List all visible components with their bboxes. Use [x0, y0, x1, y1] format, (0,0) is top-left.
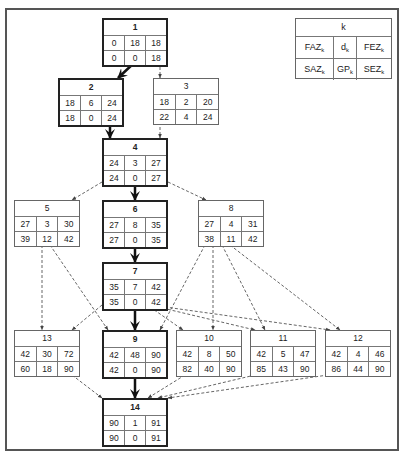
legend-fez: FEZk	[356, 37, 391, 58]
edge-12-to-14	[168, 375, 328, 398]
node-id: 5	[15, 201, 79, 217]
edge-13-to-14	[72, 375, 102, 398]
node-faz: 27	[199, 217, 220, 231]
legend-faz: FAZk	[296, 37, 333, 58]
node-row-late: 864490	[326, 361, 390, 376]
node-row-late: 824090	[177, 361, 241, 376]
node-faz: 24	[104, 156, 124, 170]
activity-node-11: 1142547854390	[250, 330, 316, 377]
node-faz: 42	[326, 347, 347, 361]
node-faz: 27	[104, 218, 124, 232]
node-duration: 4	[347, 347, 369, 361]
node-fez: 90	[145, 348, 166, 362]
node-fez: 47	[293, 347, 315, 361]
node-row-early: 27835	[104, 218, 166, 232]
node-duration: 7	[124, 280, 145, 294]
activity-node-3: 31822022424	[153, 78, 219, 125]
node-sez: 90	[145, 363, 166, 377]
node-fez: 24	[101, 96, 122, 110]
node-fez: 35	[145, 218, 166, 232]
node-id: 8	[199, 201, 263, 217]
node-id: 4	[104, 140, 166, 156]
node-duration: 48	[124, 348, 145, 362]
node-fez: 50	[219, 347, 241, 361]
legend-row-bottom: SAZk GPk SEZk	[296, 58, 391, 80]
node-gp: 0	[124, 431, 145, 445]
node-duration: 18	[124, 36, 145, 50]
node-row-early: 35742	[104, 280, 166, 294]
node-id: 3	[154, 79, 218, 95]
node-saz: 90	[104, 431, 124, 445]
activity-node-1: 1018180018	[102, 18, 168, 67]
node-gp: 44	[347, 362, 369, 376]
node-gp: 0	[124, 363, 145, 377]
node-fez: 30	[57, 217, 79, 231]
node-fez: 31	[241, 217, 263, 231]
node-row-early: 42547	[251, 347, 315, 361]
node-id: 13	[15, 331, 79, 347]
node-sez: 24	[196, 110, 218, 124]
activity-node-6: 62783527035	[102, 200, 168, 249]
node-sez: 90	[219, 362, 241, 376]
edge-4-to-5	[72, 182, 102, 200]
node-gp: 0	[124, 233, 145, 247]
node-row-late: 601890	[15, 361, 79, 376]
node-row-late: 24027	[104, 170, 166, 185]
node-gp: 11	[220, 232, 242, 246]
legend-gp: GPk	[333, 59, 356, 80]
node-id: 12	[326, 331, 390, 347]
node-gp: 0	[124, 295, 145, 309]
node-id: 2	[60, 80, 122, 96]
node-id: 14	[104, 400, 166, 416]
node-gp: 0	[80, 111, 101, 125]
node-sez: 91	[145, 431, 166, 445]
activity-node-14: 149019190091	[102, 398, 168, 447]
node-faz: 90	[104, 416, 124, 430]
node-id: 9	[104, 332, 166, 348]
node-row-early: 18624	[60, 96, 122, 110]
node-saz: 39	[15, 232, 36, 246]
edge-5-to-9	[50, 245, 108, 330]
node-gp: 40	[198, 362, 220, 376]
node-row-late: 0018	[104, 50, 166, 65]
node-saz: 22	[154, 110, 175, 124]
node-sez: 24	[101, 111, 122, 125]
node-id: 11	[251, 331, 315, 347]
node-row-early: 42850	[177, 347, 241, 361]
activity-node-10: 1042850824090	[176, 330, 242, 377]
node-duration: 5	[272, 347, 294, 361]
node-saz: 27	[104, 233, 124, 247]
node-saz: 86	[326, 362, 347, 376]
node-row-early: 27330	[15, 217, 79, 231]
node-faz: 35	[104, 280, 124, 294]
node-fez: 20	[196, 95, 218, 109]
node-duration: 8	[124, 218, 145, 232]
node-row-late: 854390	[251, 361, 315, 376]
activity-node-4: 42432724027	[102, 138, 168, 187]
node-gp: 18	[36, 362, 58, 376]
node-sez: 27	[145, 171, 166, 185]
node-row-early: 24327	[104, 156, 166, 170]
node-row-late: 42090	[104, 362, 166, 377]
node-gp: 0	[124, 171, 145, 185]
node-row-late: 22424	[154, 109, 218, 124]
node-row-late: 27035	[104, 232, 166, 247]
node-faz: 18	[60, 96, 80, 110]
node-fez: 46	[368, 347, 390, 361]
node-faz: 42	[104, 348, 124, 362]
activity-node-7: 73574235042	[102, 262, 168, 311]
node-gp: 12	[36, 232, 58, 246]
node-saz: 24	[104, 171, 124, 185]
activity-node-12: 1242446864490	[325, 330, 391, 377]
node-fez: 18	[145, 36, 166, 50]
activity-node-5: 527330391242	[14, 200, 80, 247]
node-row-early: 27431	[199, 217, 263, 231]
node-faz: 18	[154, 95, 175, 109]
node-saz: 60	[15, 362, 36, 376]
node-row-early: 42446	[326, 347, 390, 361]
edge-11-to-14	[158, 375, 255, 398]
node-fez: 42	[145, 280, 166, 294]
node-id: 10	[177, 331, 241, 347]
legend-title: k	[296, 19, 391, 37]
node-row-late: 18024	[60, 110, 122, 125]
